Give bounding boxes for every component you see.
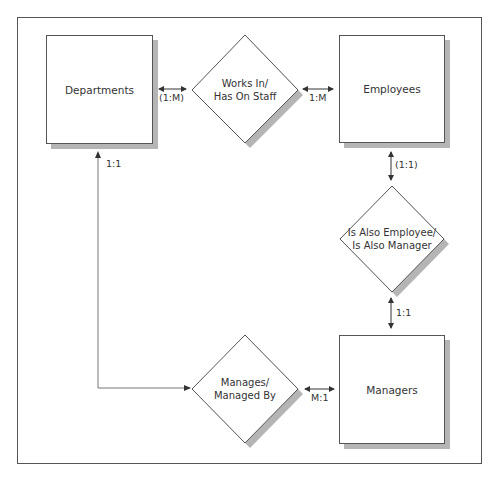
- departments-entity: Departments: [46, 35, 153, 144]
- departments-manages-connector: [98, 153, 190, 388]
- cardinality-departments-works-in: (1:M): [159, 92, 184, 103]
- cardinality-managers-manages: M:1: [311, 392, 328, 403]
- employees-label: Employees: [363, 83, 420, 95]
- employees-entity: Employees: [339, 35, 445, 143]
- departments-label: Departments: [65, 84, 134, 96]
- works-in-relationship-diamond: [192, 35, 298, 143]
- managers-entity: Managers: [339, 335, 445, 444]
- er-diagram: Departments Employees Managers Works In/…: [0, 0, 498, 479]
- managers-label: Managers: [366, 384, 418, 396]
- cardinality-departments-manages: 1:1: [106, 158, 121, 169]
- cardinality-employees-is-also: (1:1): [395, 159, 418, 170]
- manages-relationship-diamond: [192, 335, 298, 443]
- cardinality-is-also-managers: 1:1: [396, 307, 411, 318]
- departments-arrowhead-icon: [95, 151, 101, 158]
- is-also-relationship-diamond: [340, 186, 444, 292]
- cardinality-works-in-employees: 1:M: [309, 92, 326, 103]
- manages-arrowhead-icon: [184, 385, 191, 391]
